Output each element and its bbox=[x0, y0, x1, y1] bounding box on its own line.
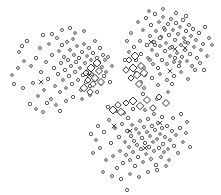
data-point-circle bbox=[87, 46, 90, 49]
data-point-circle bbox=[58, 109, 61, 112]
data-point-circle bbox=[110, 174, 113, 177]
data-point-circle bbox=[160, 58, 163, 61]
data-point-circle bbox=[65, 87, 68, 90]
data-point-circle bbox=[73, 70, 76, 73]
data-point-circle bbox=[162, 8, 165, 11]
data-point-circle bbox=[131, 124, 134, 127]
data-point-circle bbox=[211, 44, 214, 47]
data-point-circle bbox=[64, 99, 67, 102]
data-point-circle bbox=[66, 58, 69, 61]
data-point-circle bbox=[187, 78, 190, 81]
scatter-plot-figure bbox=[0, 0, 221, 195]
data-point-circle bbox=[164, 29, 167, 32]
data-point-circle bbox=[79, 67, 82, 70]
data-point-circle bbox=[184, 14, 187, 17]
data-point-circle bbox=[179, 61, 182, 64]
data-point-circle bbox=[83, 43, 86, 46]
data-point-circle bbox=[172, 144, 175, 147]
data-point-circle bbox=[128, 146, 131, 149]
data-point-circle bbox=[60, 28, 63, 31]
data-point-circle bbox=[178, 126, 181, 129]
data-point-circle bbox=[41, 110, 44, 113]
data-point-circle bbox=[184, 41, 187, 44]
data-point-circle bbox=[156, 66, 159, 69]
data-point-circle bbox=[132, 139, 135, 142]
data-point-circle bbox=[30, 65, 33, 68]
data-point-circle bbox=[170, 82, 173, 85]
data-point-circle bbox=[142, 125, 145, 128]
data-point-circle bbox=[71, 95, 74, 98]
data-point-circle bbox=[172, 74, 175, 77]
data-point-circle bbox=[206, 55, 209, 58]
data-point-circle bbox=[128, 158, 131, 161]
data-point-circle bbox=[115, 166, 118, 169]
data-point-circle bbox=[152, 141, 155, 144]
data-point-circle bbox=[153, 12, 156, 15]
data-point-circle bbox=[139, 120, 142, 123]
data-point-circle bbox=[146, 170, 149, 173]
data-point-circle bbox=[144, 109, 147, 112]
data-point-circle bbox=[149, 59, 152, 62]
data-point-circle bbox=[159, 73, 162, 76]
data-point-circle bbox=[167, 33, 170, 36]
data-point-circle bbox=[135, 143, 138, 146]
data-point-circle bbox=[156, 83, 159, 86]
data-point-circle bbox=[39, 70, 42, 73]
data-point-circle bbox=[201, 42, 204, 45]
data-point-circle bbox=[74, 32, 77, 35]
data-point-circle bbox=[181, 18, 184, 21]
data-point-circle bbox=[200, 49, 203, 52]
data-point-circle bbox=[117, 135, 120, 138]
data-point-circle bbox=[179, 112, 182, 115]
data-point-circle bbox=[153, 150, 156, 153]
data-point-circle bbox=[34, 56, 37, 59]
data-point-circle bbox=[188, 52, 191, 55]
data-point-circle bbox=[195, 56, 198, 59]
plot-background bbox=[0, 0, 221, 195]
data-point-circle bbox=[179, 26, 182, 29]
data-point-circle bbox=[142, 29, 145, 32]
data-point-circle bbox=[137, 21, 140, 24]
data-point-circle bbox=[94, 40, 97, 43]
data-point-circle bbox=[102, 130, 105, 133]
data-point-circle bbox=[111, 65, 114, 68]
data-point-circle bbox=[193, 46, 196, 49]
data-point-circle bbox=[175, 134, 178, 137]
data-point-circle bbox=[165, 124, 168, 127]
data-point-circle bbox=[160, 156, 163, 159]
data-point-circle bbox=[173, 61, 176, 64]
data-point-circle bbox=[156, 138, 159, 141]
data-point-circle bbox=[162, 16, 165, 19]
data-point-circle bbox=[168, 46, 171, 49]
data-point-circle bbox=[56, 72, 59, 75]
data-point-circle bbox=[198, 61, 201, 64]
data-point-circle bbox=[186, 121, 189, 124]
data-point-circle bbox=[104, 59, 107, 62]
data-point-circle bbox=[193, 68, 196, 71]
data-point-circle bbox=[174, 21, 177, 24]
data-point-circle bbox=[11, 74, 14, 77]
scatter-plot-canvas bbox=[0, 0, 221, 195]
data-point-circle bbox=[153, 43, 156, 46]
data-point-circle bbox=[168, 159, 171, 162]
data-point-circle bbox=[208, 37, 211, 40]
data-point-circle bbox=[138, 132, 141, 135]
data-point-circle bbox=[183, 37, 186, 40]
data-point-circle bbox=[101, 53, 104, 56]
data-point-circle bbox=[73, 54, 76, 57]
data-point-circle bbox=[52, 66, 55, 69]
data-point-circle bbox=[102, 171, 105, 174]
data-point-circle bbox=[143, 141, 146, 144]
data-point-circle bbox=[108, 80, 111, 83]
data-point-circle bbox=[48, 43, 51, 46]
data-point-circle bbox=[170, 129, 173, 132]
data-point-circle bbox=[55, 104, 58, 107]
data-point-circle bbox=[161, 142, 164, 145]
data-point-circle bbox=[163, 151, 166, 154]
data-point-circle bbox=[69, 49, 72, 52]
data-point-circle bbox=[148, 34, 151, 37]
data-point-circle bbox=[146, 117, 149, 120]
data-point-circle bbox=[186, 60, 189, 63]
data-point-circle bbox=[152, 112, 155, 115]
data-point-circle bbox=[63, 68, 66, 71]
